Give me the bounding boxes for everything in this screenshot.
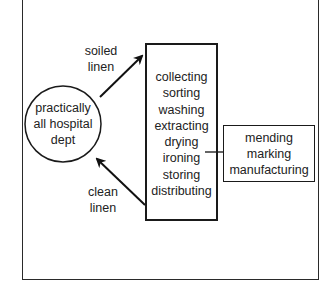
auxiliary-step: manufacturing bbox=[223, 162, 315, 178]
source-node-line: practically bbox=[25, 100, 101, 116]
process-steps-list: collecting sorting washing extracting dr… bbox=[145, 69, 218, 199]
process-step: ironing bbox=[145, 150, 218, 166]
process-step: washing bbox=[145, 102, 218, 118]
auxiliary-step: mending bbox=[223, 130, 315, 146]
process-step: sorting bbox=[145, 85, 218, 101]
edge-label-line: clean bbox=[80, 184, 126, 200]
clean-linen-label: clean linen bbox=[80, 184, 126, 216]
source-node-label: practically all hospital dept bbox=[25, 100, 101, 148]
auxiliary-steps-list: mending marking manufacturing bbox=[223, 130, 315, 178]
soiled-linen-label: soiled linen bbox=[78, 43, 124, 75]
edge-label-line: linen bbox=[80, 200, 126, 216]
process-step: drying bbox=[145, 134, 218, 150]
source-node-line: all hospital bbox=[25, 116, 101, 132]
process-step: storing bbox=[145, 167, 218, 183]
process-step: collecting bbox=[145, 69, 218, 85]
process-step: distributing bbox=[145, 183, 218, 199]
source-node-line: dept bbox=[25, 132, 101, 148]
auxiliary-step: marking bbox=[223, 146, 315, 162]
process-step: extracting bbox=[145, 118, 218, 134]
linen-flow-diagram: practically all hospital dept soiled lin… bbox=[0, 0, 331, 290]
edge-label-line: soiled bbox=[78, 43, 124, 59]
edge-label-line: linen bbox=[78, 59, 124, 75]
